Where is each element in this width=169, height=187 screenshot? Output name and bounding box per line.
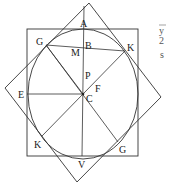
label-a: A: [80, 18, 88, 29]
label-c: C: [86, 93, 93, 104]
side-letter: s: [160, 49, 164, 60]
label-p: P: [85, 70, 91, 81]
label-k-bottom: K: [34, 139, 42, 150]
label-e: E: [18, 89, 24, 100]
label-f: F: [95, 83, 101, 94]
label-b: B: [85, 40, 92, 51]
center-point: [82, 93, 85, 96]
label-g-bottom: G: [119, 144, 126, 155]
label-k-top: K: [127, 42, 135, 53]
label-g-top: G: [36, 36, 43, 47]
side-denominator: 2: [159, 35, 164, 46]
ellipse-diagram: A G B M K P F E C K G V y 2 s: [0, 0, 169, 187]
label-m: M: [71, 47, 80, 58]
label-v: V: [78, 159, 86, 170]
